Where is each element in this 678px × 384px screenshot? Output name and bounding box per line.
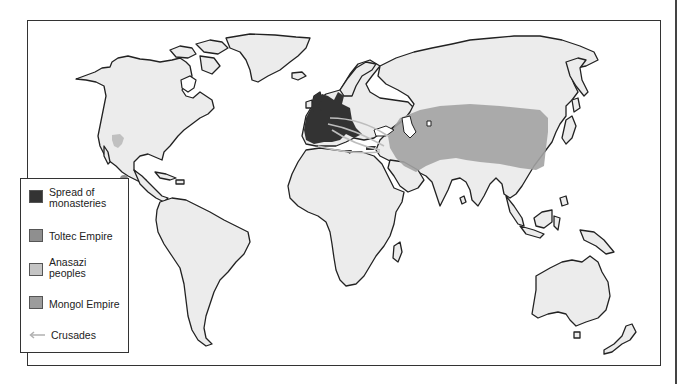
legend-item-mongol: Mongol Empire (29, 296, 120, 310)
legend-item-crusades: Crusades (29, 329, 96, 341)
legend-label: peoples (49, 267, 86, 279)
south-america (156, 198, 250, 346)
north-america (76, 56, 214, 184)
arrow-left-icon (29, 331, 45, 339)
australia (532, 256, 610, 326)
legend-label: Crusades (51, 330, 96, 341)
legend-label: monasteries (49, 197, 106, 209)
mongol-swatch-icon (29, 296, 43, 309)
legend-item-monasteries: Spread of monasteries (29, 187, 106, 209)
monasteries-swatch-icon (29, 190, 43, 203)
legend-item-anasazi: Anasazi peoples (29, 257, 86, 279)
legend-item-toltec: Toltec Empire (29, 229, 113, 242)
toltec-swatch-icon (29, 229, 43, 242)
legend-label: Mongol Empire (49, 299, 120, 310)
legend-label: Toltec Empire (49, 231, 113, 242)
map-legend: Spread of monasteries Toltec Empire Anas… (20, 178, 129, 353)
africa (288, 148, 404, 286)
anasazi-swatch-icon (29, 263, 43, 276)
